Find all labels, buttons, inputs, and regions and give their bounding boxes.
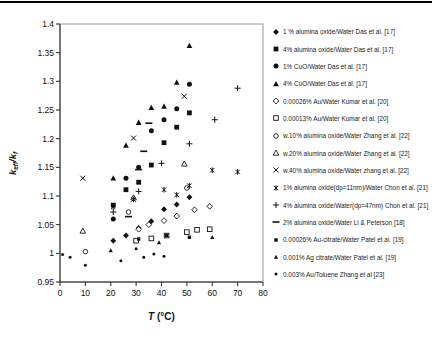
data-point [110, 209, 116, 215]
y-tick-label: 1.2 [42, 134, 54, 144]
data-point [149, 128, 154, 133]
data-point [195, 228, 200, 233]
legend-marker-diamond-filled [271, 27, 281, 37]
x-tick-label: 80 [258, 288, 268, 298]
legend-label: 1% CuO/Water Das et al. [17] [283, 63, 367, 70]
legend-label: w.40% alumina oxide/Water zhang et al. [… [283, 167, 409, 174]
data-point [159, 160, 165, 166]
data-point [109, 248, 113, 252]
data-point [61, 253, 64, 256]
legend-marker-asterisk [271, 183, 281, 193]
series-triangle-small-filled [109, 235, 215, 252]
data-point [148, 105, 154, 110]
legend-marker-square-open [271, 113, 281, 123]
legend-marker-square-small-filled [271, 235, 281, 245]
data-point [142, 256, 145, 259]
legend-item: 4% alumina oxide/Water(dp=47nm) Chon et … [271, 196, 428, 213]
legend-item: w.10% alumina oxide/Water Zhang et al. [… [271, 127, 428, 144]
y-tick-label: 1.15 [37, 162, 54, 172]
legend-marker-circle-filled [271, 61, 281, 71]
series-circle-open [83, 186, 189, 254]
x-tick-label: 0 [58, 288, 63, 298]
data-point [83, 249, 88, 254]
scatter-plot: 0.9511.051.11.151.21.251.31.351.40102030… [0, 0, 270, 346]
x-tick-label: 30 [131, 288, 141, 298]
plot-border [60, 24, 263, 282]
series-triangle-filled [110, 43, 192, 181]
legend-label: 0.00026% Au/Water Kumar et al. [20] [283, 98, 388, 105]
series-circle-filled [111, 82, 192, 222]
x-tick-label: 60 [208, 288, 218, 298]
y-tick-label: 1.05 [37, 220, 54, 230]
data-point [175, 192, 179, 198]
data-point [124, 187, 129, 192]
data-point [212, 117, 218, 123]
legend-item: 4% alumina oxide/Water Das et al. [17] [271, 40, 428, 57]
data-point [149, 236, 154, 241]
data-point [182, 161, 188, 166]
legend-marker-square-filled [271, 44, 281, 54]
data-point [162, 117, 167, 122]
legend-item: 0.00026% Au-citrate/Water Patel et al. [… [271, 231, 428, 248]
legend-item: 0.00013% Au/Water Kumar et al. [20] [271, 110, 428, 127]
data-point [163, 255, 166, 258]
data-point [174, 202, 180, 208]
legend-marker-triangle-filled [271, 79, 281, 89]
legend-item: 0.003% Au/Toluene Zhang et al [23] [271, 266, 428, 283]
legend-label: 1 % alumina oxide/Water Das et al. [17] [283, 28, 395, 35]
data-point [165, 234, 168, 237]
legend-label: 4% alumina oxide/Water Das et al. [17] [283, 46, 393, 53]
legend-label: w.20% alumina oxide/Water Zhang et al. [… [283, 150, 410, 157]
data-point [235, 169, 239, 175]
legend: 1 % alumina oxide/Water Das et al. [17]4… [271, 23, 428, 283]
data-point [161, 218, 167, 224]
data-point [149, 163, 154, 168]
legend-label: 2% alumina oxide/Water Li & Peterson [18… [283, 219, 405, 226]
data-point [84, 264, 87, 267]
legend-label: 0.001% Ag citrate/Water Patel et al. [19… [283, 254, 396, 261]
legend-label: 4% alumina oxide/Water(dp=47nm) Chon et … [283, 202, 428, 209]
data-point [123, 176, 128, 181]
legend-item: 0.001% Ag citrate/Water Patel et al. [19… [271, 248, 428, 265]
x-tick-label: 40 [157, 288, 167, 298]
data-point [187, 43, 193, 48]
data-point [136, 120, 142, 125]
x-tick-label: 20 [106, 288, 116, 298]
data-point [174, 79, 180, 84]
data-point [187, 194, 193, 200]
y-tick-label: 0.95 [37, 277, 54, 287]
data-point [185, 230, 190, 235]
data-point [187, 110, 192, 115]
y-tick-label: 1.25 [37, 105, 54, 115]
y-tick-label: 1.3 [42, 76, 54, 86]
x-tick-label: 10 [81, 288, 91, 298]
data-point [135, 247, 138, 250]
data-point [186, 141, 192, 147]
data-point [174, 106, 179, 111]
x-tick-label: 70 [233, 288, 243, 298]
data-point [137, 237, 140, 240]
legend-marker-dot [271, 269, 281, 279]
data-point [126, 210, 131, 215]
data-point [136, 180, 141, 185]
legend-label: 4% CuO/Water Das et al. [17] [283, 80, 367, 87]
legend-item: w.20% alumina oxide/Water Zhang et al. [… [271, 144, 428, 161]
data-point [80, 228, 86, 233]
data-point [188, 236, 191, 239]
x-axis-title: T (°C) [148, 311, 175, 322]
legend-label: 0.00013% Au/Water Kumar et al. [20] [283, 115, 388, 122]
data-point [161, 206, 167, 212]
nanofluid-conductivity-figure: keff/kf 0.9511.051.11.151.21.251.31.351.… [0, 0, 432, 346]
legend-marker-plus [271, 200, 281, 210]
data-point [119, 259, 122, 262]
series-square-filled [111, 110, 192, 207]
legend-marker-triangle-open [271, 148, 281, 158]
legend-label: 0.00026% Au-citrate/Water Patel et al. [… [283, 236, 404, 243]
legend-label: 1% alumina oxide(dp=11nm)/Water Chon et … [283, 184, 428, 191]
data-point [80, 176, 85, 181]
y-tick-label: 1.1 [42, 191, 54, 201]
data-point [162, 140, 167, 145]
legend-item: 1% alumina oxide(dp=11nm)/Water Chon et … [271, 179, 428, 196]
x-tick-label: 50 [182, 288, 192, 298]
y-tick-label: 1 [49, 248, 54, 258]
